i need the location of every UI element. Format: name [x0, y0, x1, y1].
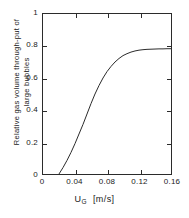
x-axis-title-subscript: G — [81, 198, 86, 205]
y-axis-title-line2: large bubbles — [22, 0, 32, 172]
data-curve — [43, 14, 171, 174]
plot-area — [42, 13, 172, 175]
x-axis-title-units: [m/s] — [93, 194, 115, 204]
y-axis-title-line1: Relative gas volume through-put of — [12, 0, 22, 172]
y-axis-title: Relative gas volume through-put of large… — [12, 0, 32, 172]
x-axis-title: UG[m/s] — [0, 194, 189, 205]
chart-figure: 1 0.8 0.6 0.4 0.2 0 0 0.04 0.08 0.12 0.1… — [0, 0, 189, 218]
x-tick-label-0.16: 0.16 — [152, 178, 189, 186]
